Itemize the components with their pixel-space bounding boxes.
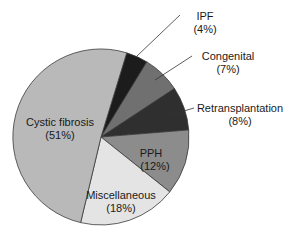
pph-pct: (12%) [140,160,169,172]
cystic-fibrosis-pct: (51%) [45,129,74,141]
pph-label: PPH [140,147,163,159]
ipf-leader-line [137,15,180,56]
congenital-leader-line [155,56,192,80]
miscellaneous-label: Miscellaneous [86,189,156,201]
congenital-pct: (7%) [216,63,239,75]
cystic-fibrosis-label: Cystic fibrosis [26,116,94,128]
congenital-label: Congenital [202,50,255,62]
pie-chart: IPF (4%) Congenital (7%) Retransplantati… [0,0,284,240]
retransplantation-pct: (8%) [228,115,251,127]
ipf-label: IPF [196,10,213,22]
ipf-pct: (4%) [193,23,216,35]
miscellaneous-pct: (18%) [106,202,135,214]
retransplantation-label: Retransplantation [197,102,283,114]
